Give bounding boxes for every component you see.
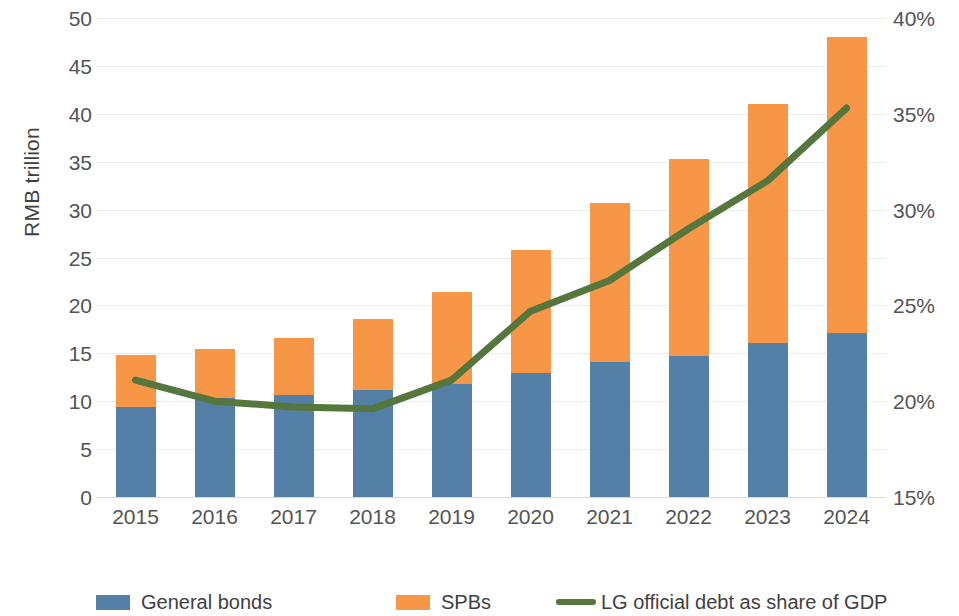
- y-axis-left-tick-label: 20: [69, 295, 92, 316]
- gridline: [96, 66, 886, 67]
- bar-group[interactable]: [827, 37, 867, 497]
- bar-segment[interactable]: [274, 338, 314, 395]
- bar-segment[interactable]: [116, 355, 156, 407]
- bar-segment[interactable]: [669, 356, 709, 497]
- bar-segment[interactable]: [748, 104, 788, 343]
- y-axis-left-tick-label: 50: [69, 8, 92, 29]
- legend-item[interactable]: LG official debt as share of GDP: [556, 591, 887, 614]
- y-axis-left-tick-label: 0: [80, 487, 92, 508]
- y-axis-right-tick-label: 25%: [893, 295, 935, 316]
- y-axis-left-tick-label: 35: [69, 151, 92, 172]
- legend-item-label: LG official debt as share of GDP: [601, 591, 887, 614]
- y-axis-right-tick-label: 35%: [893, 103, 935, 124]
- gridline: [96, 18, 886, 19]
- y-axis-left-tick-label: 25: [69, 247, 92, 268]
- y-axis-left-tick-label: 10: [69, 391, 92, 412]
- y-axis-left-tick-label: 30: [69, 199, 92, 220]
- legend-item[interactable]: General bonds: [96, 591, 272, 614]
- bar-segment[interactable]: [748, 343, 788, 497]
- x-axis-tick-label: 2024: [823, 505, 870, 529]
- legend-line-marker: [556, 599, 596, 605]
- x-axis-tick-label: 2017: [270, 505, 317, 529]
- x-axis-ticks: 2015201620172018201920202021202220232024: [96, 505, 886, 539]
- bar-segment[interactable]: [432, 292, 472, 384]
- bar-segment[interactable]: [590, 362, 630, 497]
- bar-segment[interactable]: [353, 390, 393, 497]
- bar-segment[interactable]: [827, 37, 867, 333]
- y-axis-right-ticks: 15%20%25%30%35%40%: [893, 0, 959, 616]
- bar-group[interactable]: [511, 250, 551, 497]
- y-axis-right-tick-label: 30%: [893, 199, 935, 220]
- legend-item-label: SPBs: [441, 591, 491, 614]
- bar-group[interactable]: [116, 355, 156, 497]
- axis-baseline: [96, 497, 886, 498]
- y-axis-left-ticks: 05101520253035404550: [18, 0, 92, 616]
- x-axis-tick-label: 2018: [349, 505, 396, 529]
- bar-segment[interactable]: [511, 250, 551, 374]
- legend-color-swatch: [96, 595, 130, 610]
- bar-segment[interactable]: [116, 407, 156, 497]
- y-axis-left-tick-label: 45: [69, 55, 92, 76]
- bar-group[interactable]: [669, 159, 709, 497]
- bar-group[interactable]: [195, 349, 235, 497]
- x-axis-tick-label: 2020: [507, 505, 554, 529]
- chart-container: RMB trillion 05101520253035404550 15%20%…: [0, 0, 959, 616]
- bar-segment[interactable]: [511, 373, 551, 497]
- bar-segment[interactable]: [432, 384, 472, 497]
- x-axis-tick-label: 2016: [191, 505, 238, 529]
- x-axis-tick-label: 2022: [665, 505, 712, 529]
- x-axis-tick-label: 2015: [112, 505, 159, 529]
- bar-group[interactable]: [748, 104, 788, 497]
- y-axis-right-tick-label: 40%: [893, 8, 935, 29]
- plot-area: [96, 18, 886, 497]
- x-axis-tick-label: 2019: [428, 505, 475, 529]
- y-axis-left-tick-label: 5: [80, 439, 92, 460]
- bar-segment[interactable]: [195, 398, 235, 497]
- bar-group[interactable]: [432, 292, 472, 497]
- x-axis-tick-label: 2023: [744, 505, 791, 529]
- x-axis-tick-label: 2021: [586, 505, 633, 529]
- bar-group[interactable]: [353, 319, 393, 497]
- bar-segment[interactable]: [590, 203, 630, 362]
- y-axis-right-tick-label: 15%: [893, 487, 935, 508]
- bar-segment[interactable]: [274, 395, 314, 497]
- legend-item-label: General bonds: [141, 591, 272, 614]
- y-axis-right-tick-label: 20%: [893, 391, 935, 412]
- bar-segment[interactable]: [827, 333, 867, 497]
- bar-segment[interactable]: [195, 349, 235, 398]
- chart-legend: General bondsSPBsLG official debt as sha…: [96, 588, 896, 616]
- bar-group[interactable]: [274, 338, 314, 497]
- y-axis-left-tick-label: 40: [69, 103, 92, 124]
- bar-group[interactable]: [590, 203, 630, 497]
- legend-color-swatch: [396, 595, 430, 610]
- bar-segment[interactable]: [353, 319, 393, 390]
- legend-item[interactable]: SPBs: [396, 591, 491, 614]
- bar-segment[interactable]: [669, 159, 709, 356]
- y-axis-left-tick-label: 15: [69, 343, 92, 364]
